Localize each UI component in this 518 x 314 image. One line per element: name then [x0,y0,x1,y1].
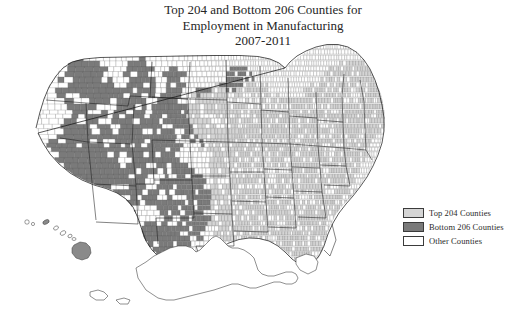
county-cell [296,195,299,199]
county-cell [363,50,366,55]
county-cell [291,110,294,113]
county-cell [373,114,376,117]
county-cell [378,226,380,230]
county-cell [337,45,340,49]
county-cell [138,67,142,72]
county-cell [328,178,331,183]
county-cell [384,222,387,226]
county-cell [338,114,341,117]
county-cell [153,98,158,104]
county-cell [357,104,359,109]
county-cell [321,210,323,214]
county-cell [362,71,365,75]
county-cell [211,190,214,195]
county-cell [114,200,122,206]
county-cell [272,104,275,109]
county-cell [269,205,272,209]
county-cell [358,129,361,134]
county-cell [282,158,284,162]
county-cell [378,174,381,177]
county-cell [341,271,343,275]
county-cell [363,222,365,226]
county-cell [46,195,54,202]
county-cell [323,226,325,230]
county-cell [275,236,277,240]
county-cell [382,222,384,226]
county-cell [220,200,224,205]
county-cell [267,40,269,44]
county-cell [133,247,137,252]
county-cell [329,236,332,240]
county-cell [302,104,305,109]
county-cell [210,158,214,163]
county-cell [345,178,347,183]
county-cell [359,210,362,214]
county-cell [219,226,223,231]
county-cell [339,110,342,113]
county-cell [259,71,262,75]
county-cell [309,210,311,214]
county-cell [294,104,297,109]
county-cell [333,143,336,146]
county-cell [388,205,391,209]
county-cell [242,184,245,188]
county-cell [296,143,298,146]
county-cell [207,200,211,205]
county-cell [237,200,241,205]
county-cell [77,184,84,190]
county-cell [230,67,234,71]
county-cell [265,124,268,127]
county-cell [333,200,335,204]
county-cell [25,205,33,212]
county-cell [332,168,334,173]
county-cell [252,83,256,87]
county-cell [346,71,349,75]
county-cell [219,216,222,221]
county-cell [302,216,305,221]
county-cell [163,110,169,114]
county-cell [208,88,212,93]
county-cell [219,61,223,66]
county-cell [350,241,353,246]
county-cell [222,205,226,209]
county-cell [351,174,354,177]
county-cell [340,232,342,235]
county-cell [269,222,271,226]
county-cell [297,129,299,134]
county-cell [118,71,123,77]
county-cell [344,139,347,142]
county-cell [162,61,168,67]
county-cell [348,124,351,127]
county-cell [244,71,246,75]
county-cell [359,190,362,194]
county-cell [140,40,146,46]
county-cell [307,236,310,240]
county-cell [35,232,41,238]
county-cell [323,134,325,138]
county-cell [233,178,237,183]
county-cell [218,190,222,195]
county-cell [182,184,187,189]
county-cell [360,205,362,209]
county-cell [192,222,195,226]
county-cell [347,252,350,256]
county-cell [343,271,346,275]
county-cell [126,178,133,185]
county-cell [172,61,177,67]
county-cell [319,50,322,55]
county-cell [376,143,379,146]
county-cell [214,88,218,93]
county-cell [335,61,337,66]
county-cell [341,67,344,71]
county-cell [228,118,231,123]
county-cell [135,241,142,247]
county-cell [303,110,306,113]
county-cell [258,178,261,183]
county-cell [271,83,273,87]
county-cell [25,77,33,85]
county-cell [303,93,306,97]
county-cell [355,45,357,49]
county-cell [339,241,342,246]
county-cell [223,45,226,49]
county-cell [286,195,288,199]
